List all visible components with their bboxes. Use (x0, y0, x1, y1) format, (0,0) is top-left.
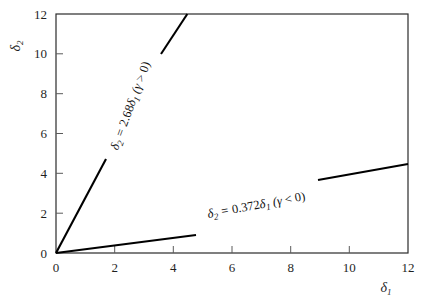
x-tick-label: 4 (170, 260, 177, 275)
x-axis-title-subscript: 1 (387, 287, 392, 297)
x-tick-label: 2 (111, 260, 118, 275)
x-tick-label: 8 (287, 260, 294, 275)
x-tick-label: 12 (402, 260, 415, 275)
y-tick-label: 4 (41, 166, 48, 181)
x-tick-label: 10 (343, 260, 356, 275)
y-tick-label: 0 (41, 246, 48, 261)
y-tick-label: 8 (41, 86, 48, 101)
y-tick-label: 6 (41, 126, 48, 141)
y-tick-label: 12 (34, 7, 47, 22)
y-axis-title-subscript: 2 (15, 40, 25, 45)
figure-container: 0 2 4 6 8 10 12 0 2 4 6 8 10 12 δ2 δ1 (0, 0, 429, 308)
line-chart: 0 2 4 6 8 10 12 0 2 4 6 8 10 12 δ2 δ1 (0, 0, 429, 308)
y-tick-label: 10 (34, 46, 47, 61)
x-tick-label: 6 (229, 260, 236, 275)
y-tick-label: 2 (41, 206, 48, 221)
x-tick-label: 0 (53, 260, 60, 275)
chart-background (0, 0, 429, 308)
